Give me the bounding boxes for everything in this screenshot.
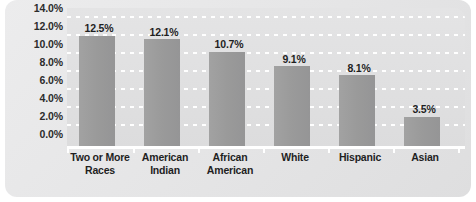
category-label-line: Indian xyxy=(130,164,200,177)
y-tick-label: 2.0% xyxy=(7,111,63,122)
bar-african-american[interactable] xyxy=(209,52,245,148)
bar-two-or-more-races[interactable] xyxy=(79,36,115,149)
gridline xyxy=(67,16,465,18)
bar-value-label: 10.7% xyxy=(195,38,263,50)
y-axis: 14.0% 12.0% 10.0% 8.0% 6.0% 4.0% 2.0% 0.… xyxy=(5,0,63,160)
category-label-line: American xyxy=(130,151,200,164)
y-tick-label: 8.0% xyxy=(7,57,63,68)
y-tick-label: 10.0% xyxy=(7,39,63,50)
category-label-white: White xyxy=(260,151,330,164)
y-tick-label: 14.0% xyxy=(7,3,63,14)
bar-value-label: 9.1% xyxy=(260,53,328,65)
bar-value-label: 12.5% xyxy=(65,22,133,34)
category-label-line: Hispanic xyxy=(325,151,395,164)
category-label-line: African xyxy=(195,151,265,164)
category-label-american-indian: American Indian xyxy=(130,151,200,177)
bar-asian[interactable] xyxy=(404,117,440,149)
category-label-hispanic: Hispanic xyxy=(325,151,395,164)
x-axis-line xyxy=(67,146,465,149)
category-label-line: White xyxy=(260,151,330,164)
bar-value-label: 8.1% xyxy=(325,62,393,74)
category-label-line: Asian xyxy=(390,151,460,164)
chart-frame: 14.0% 12.0% 10.0% 8.0% 6.0% 4.0% 2.0% 0.… xyxy=(5,0,471,197)
bar-value-label: 12.1% xyxy=(130,26,198,38)
bar-white[interactable] xyxy=(274,66,310,148)
gridline xyxy=(67,34,465,36)
category-label-african-american: African American xyxy=(195,151,265,177)
gridline xyxy=(67,70,465,72)
bar-hispanic[interactable] xyxy=(339,75,375,148)
category-label-line: Two or More xyxy=(65,151,135,164)
category-label-two-or-more-races: Two or More Races xyxy=(65,151,135,177)
category-label-asian: Asian xyxy=(390,151,460,164)
y-tick-label: 0.0% xyxy=(7,129,63,140)
y-tick-label: 12.0% xyxy=(7,21,63,32)
bar-value-label: 3.5% xyxy=(390,103,458,115)
gridline xyxy=(67,88,465,90)
category-label-line: Races xyxy=(65,164,135,177)
y-tick-label: 6.0% xyxy=(7,75,63,86)
category-label-line: American xyxy=(195,164,265,177)
bar-american-indian[interactable] xyxy=(144,39,180,148)
y-tick-label: 4.0% xyxy=(7,93,63,104)
